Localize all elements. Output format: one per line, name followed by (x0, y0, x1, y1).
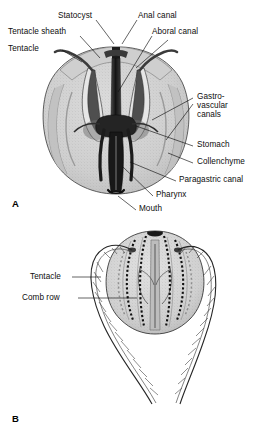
label-tentacle-b: Tentacle (30, 272, 61, 281)
label-tentacle-a: Tentacle (8, 44, 39, 53)
label-paragastric-canal: Paragastric canal (179, 175, 243, 184)
label-anal-canal: Anal canal (138, 11, 177, 20)
label-stomach: Stomach (197, 140, 230, 149)
figure-canvas (0, 0, 269, 434)
label-aboral-canal: Aboral canal (152, 27, 198, 36)
label-gastrovascular-canals: Gastro- vascular canals (197, 92, 228, 120)
leader-mouth (118, 196, 136, 210)
leader-anal-canal-upper (122, 20, 137, 44)
leader-statocyst (96, 20, 114, 44)
body-interior-b (100, 225, 215, 340)
label-mouth: Mouth (139, 204, 162, 213)
panel-letter-b: B (12, 413, 19, 424)
label-pharynx: Pharynx (156, 190, 186, 199)
panel-a-illustration (43, 20, 193, 210)
label-tentacle-sheath: Tentacle sheath (8, 27, 66, 36)
label-statocyst: Statocyst (58, 11, 92, 20)
label-collenchyme: Collenchyme (197, 157, 245, 166)
panel-b-illustration (72, 225, 216, 404)
label-comb-row: Comb row (22, 293, 60, 302)
panel-letter-a: A (12, 198, 19, 209)
pharynx-lumen (115, 136, 117, 190)
ctenophore-anatomy-figure: Statocyst Anal canal Tentacle sheath Abo… (0, 0, 269, 434)
pharynx-lumen-b (154, 244, 156, 328)
